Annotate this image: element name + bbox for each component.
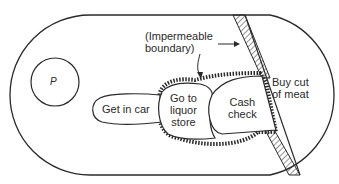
impermeable-boundary bbox=[233, 15, 270, 78]
person-label: P bbox=[50, 76, 57, 88]
arrowhead-icon bbox=[234, 41, 240, 47]
region-label-get-in-car: Get in car bbox=[102, 103, 150, 115]
region-label-cash-check: Cash check bbox=[228, 96, 257, 120]
boundary-label: (Impermeable boundary) bbox=[145, 30, 213, 54]
region-label-buy-cut-of-meat: Buy cut of meat bbox=[272, 76, 309, 100]
region-label-go-to-liquor-store: Go to liquor store bbox=[170, 92, 197, 128]
